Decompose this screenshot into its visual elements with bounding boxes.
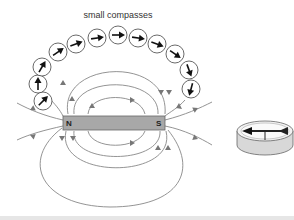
compass-icon <box>67 35 85 53</box>
magnetic-field-diagram: small compasses <box>0 0 294 220</box>
compass-icon <box>34 92 52 110</box>
field-diagram-svg: N S <box>0 0 294 220</box>
compass-icon <box>29 75 47 93</box>
bar-magnet: N S <box>63 116 165 130</box>
south-pole-label: S <box>156 119 162 128</box>
compass-icon <box>180 61 198 79</box>
compass-icon <box>129 29 147 47</box>
bottom-band <box>0 216 294 220</box>
compass-icon <box>182 80 200 98</box>
compass-icon <box>88 29 106 47</box>
field-arrowheads <box>29 80 200 150</box>
side-compass-3d <box>237 121 293 155</box>
compass-icon <box>49 43 67 61</box>
north-pole-label: N <box>66 119 72 128</box>
compass-icon <box>166 45 184 63</box>
compass-icon <box>148 35 166 53</box>
compass-icon <box>109 26 127 44</box>
compass-icon <box>33 58 51 76</box>
